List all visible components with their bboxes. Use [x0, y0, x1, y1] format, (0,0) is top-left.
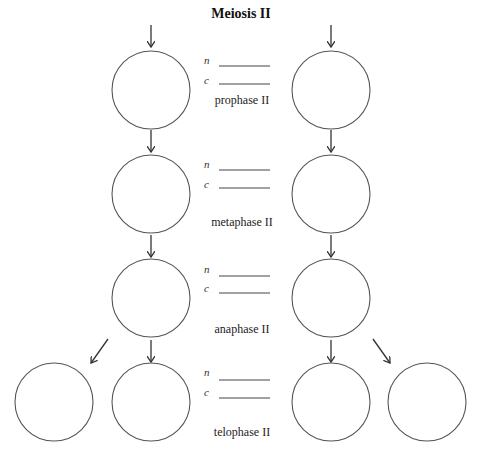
n-label: n [204, 54, 210, 66]
n-label: n [204, 366, 210, 378]
cell-telophase-2[interactable] [112, 363, 190, 441]
cell-prophase-left[interactable] [112, 51, 190, 129]
n-label: n [204, 263, 210, 275]
cell-telophase-4[interactable] [388, 363, 466, 441]
meiosis-ii-diagram: Meiosis II n c prophase II n c metaphase… [0, 0, 482, 457]
n-label: n [204, 158, 210, 170]
stage-label-prophase: prophase II [215, 93, 269, 107]
stage-label-anaphase: anaphase II [215, 322, 270, 336]
c-label: c [204, 74, 209, 86]
arrow-diagonal-right-icon [373, 339, 390, 363]
cell-prophase-right[interactable] [292, 51, 370, 129]
c-label: c [204, 178, 209, 190]
cell-anaphase-right[interactable] [292, 259, 370, 337]
cell-telophase-1[interactable] [15, 363, 93, 441]
cell-telophase-3[interactable] [292, 363, 370, 441]
cell-anaphase-left[interactable] [112, 259, 190, 337]
c-label: c [204, 282, 209, 294]
cell-metaphase-right[interactable] [292, 155, 370, 233]
stage-label-telophase: telophase II [214, 425, 270, 439]
c-label: c [204, 386, 209, 398]
arrow-diagonal-left-icon [91, 339, 108, 363]
diagram-title: Meiosis II [211, 6, 271, 21]
stage-label-metaphase: metaphase II [211, 215, 273, 229]
cell-metaphase-left[interactable] [112, 155, 190, 233]
